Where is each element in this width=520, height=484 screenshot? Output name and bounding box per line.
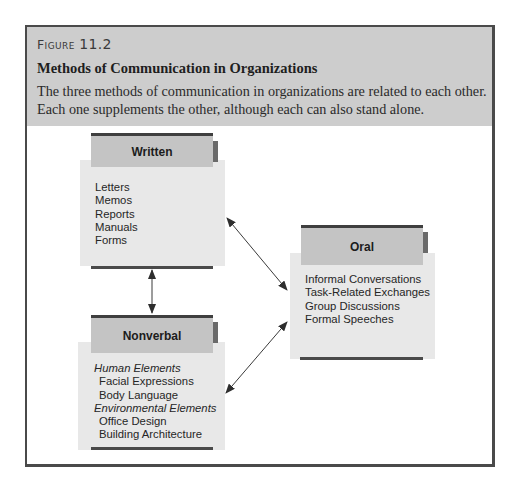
- written-tab: [213, 141, 218, 162]
- written-header: Written: [91, 133, 213, 167]
- list-item: Formal Speeches: [305, 313, 430, 326]
- nonverbal-header: Nonverbal: [91, 315, 213, 353]
- oral-baseline: [300, 357, 423, 360]
- group-label: Human Elements: [94, 362, 216, 375]
- list-item: Group Discussions: [305, 300, 430, 313]
- nonverbal-baseline: [91, 447, 213, 450]
- nonverbal-list: Human Elements Facial Expressions Body L…: [94, 362, 216, 442]
- list-item: Building Architecture: [94, 428, 216, 441]
- figure-label-prefix: Figure: [37, 37, 75, 52]
- written-baseline: [91, 266, 213, 269]
- list-item: Memos: [95, 194, 138, 207]
- group-label: Environmental Elements: [94, 402, 216, 415]
- caption-band: Figure 11.2 Methods of Communication in …: [27, 27, 492, 126]
- list-item: Reports: [95, 208, 138, 221]
- figure-title: Methods of Communication in Organization…: [37, 60, 317, 77]
- list-item: Task-Related Exchanges: [305, 286, 430, 299]
- oral-tab: [423, 232, 428, 253]
- list-item: Body Language: [94, 389, 216, 402]
- figure-description: The three methods of communication in or…: [37, 82, 487, 118]
- list-item: Manuals: [95, 221, 138, 234]
- written-list: Letters Memos Reports Manuals Forms: [95, 181, 138, 247]
- list-item: Facial Expressions: [94, 375, 216, 388]
- list-item: Informal Conversations: [305, 273, 430, 286]
- oral-header: Oral: [301, 225, 423, 265]
- list-item: Letters: [95, 181, 138, 194]
- figure-label: Figure 11.2: [37, 36, 112, 52]
- oral-list: Informal Conversations Task-Related Exch…: [305, 273, 430, 326]
- list-item: Office Design: [94, 415, 216, 428]
- nonverbal-tab: [213, 322, 218, 343]
- figure-number: 11.2: [79, 36, 112, 52]
- list-item: Forms: [95, 234, 138, 247]
